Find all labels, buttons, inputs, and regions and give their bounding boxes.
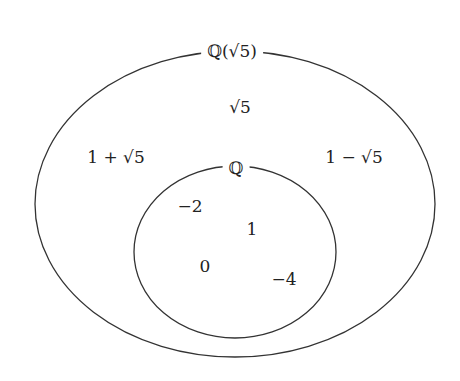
element-minus-2: −2: [177, 198, 202, 215]
inner-set-label: ℚ: [223, 160, 250, 177]
element-0: 0: [200, 258, 211, 275]
element-sqrt5: √5: [229, 99, 251, 116]
element-1: 1: [247, 221, 258, 238]
element-1-minus-sqrt5: 1 − √5: [325, 149, 383, 166]
element-1-plus-sqrt5: 1 + √5: [87, 149, 145, 166]
outer-set-label: ℚ(√5): [201, 43, 263, 60]
inner-set-ellipse: [134, 166, 336, 338]
element-minus-4: −4: [271, 271, 296, 288]
